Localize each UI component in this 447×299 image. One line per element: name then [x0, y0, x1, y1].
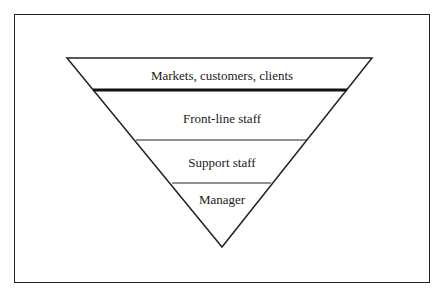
layer-label-manager: Manager	[199, 193, 245, 206]
layer-label-support-staff: Support staff	[188, 156, 255, 169]
inverted-pyramid	[0, 0, 447, 299]
layer-label-markets: Markets, customers, clients	[151, 69, 293, 82]
layer-label-front-line-staff: Front-line staff	[183, 112, 261, 125]
pyramid-outline	[67, 58, 372, 247]
